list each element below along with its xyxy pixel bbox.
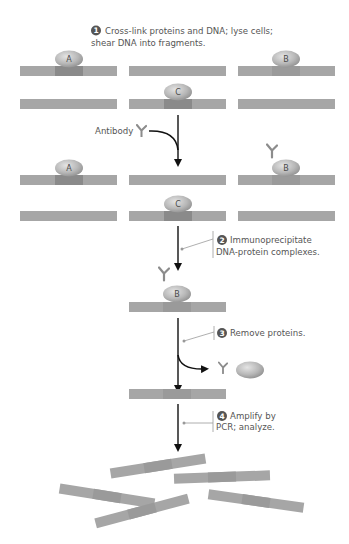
step-2-label: 2 Immunoprecipitate DNA-protein complexe…: [181, 231, 320, 258]
svg-text:C: C: [175, 88, 181, 97]
antibody-icon: [219, 363, 227, 374]
protein-b: B: [272, 51, 300, 68]
precipitated-complex: B: [129, 268, 226, 313]
step-1-text-line1: Cross-link proteins and DNA; lyse cells;: [105, 26, 273, 36]
antibody-icon: [137, 125, 146, 137]
pcr-fragment: [59, 484, 155, 509]
svg-text:C: C: [175, 200, 181, 209]
svg-text:B: B: [174, 290, 180, 299]
step-2-text-line2: DNA-protein complexes.: [216, 247, 320, 257]
free-protein: [236, 362, 264, 379]
removal-arrow: [178, 355, 205, 369]
free-dna: [129, 389, 226, 399]
step-4-text-line1: Amplify by: [230, 411, 276, 421]
step-4-label: 4 Amplify by PCR; analyze.: [183, 411, 276, 432]
svg-text:B: B: [283, 164, 289, 173]
antibody-icon: [159, 268, 169, 281]
chip-diagram: 1 Cross-link proteins and DNA; lyse cell…: [0, 0, 349, 544]
dna-fragment: [238, 211, 335, 221]
step-1-number: 1: [93, 26, 98, 35]
protein-b-with-antibody: B: [267, 145, 300, 177]
step-3-text: Remove proteins.: [230, 328, 305, 338]
leader-line: [184, 332, 214, 341]
step-4-text-line2: PCR; analyze.: [216, 422, 275, 432]
svg-text:2: 2: [219, 236, 224, 245]
step-1-label: 1 Cross-link proteins and DNA; lyse cell…: [91, 26, 273, 48]
protein-c-2: C: [164, 196, 192, 213]
pcr-fragment: [174, 470, 270, 483]
antibody-label: Antibody: [95, 126, 133, 136]
released-proteins: [219, 362, 264, 379]
dna-fragment: [20, 99, 117, 109]
dna-fragment: [129, 66, 226, 76]
dna-row-3: [20, 175, 335, 185]
dna-binding-site: [163, 302, 191, 312]
svg-text:B: B: [283, 55, 289, 64]
step-1-text-line2: shear DNA into fragments.: [91, 38, 206, 48]
dna-fragment: [20, 211, 117, 221]
svg-text:A: A: [66, 164, 72, 173]
pcr-products: [59, 454, 304, 529]
dna-fragment: [238, 99, 335, 109]
pcr-fragment: [208, 489, 304, 512]
dna-fragment: [129, 175, 226, 185]
leader-line: [182, 239, 213, 249]
svg-text:3: 3: [219, 329, 224, 338]
step-3-label: 3 Remove proteins.: [183, 326, 306, 343]
protein-a: A: [55, 51, 83, 68]
dna-binding-site: [163, 389, 191, 399]
dna-row-2: [20, 99, 335, 109]
dna-row-1: [20, 66, 335, 76]
step-2-text-line1: Immunoprecipitate: [230, 235, 312, 245]
protein-c: C: [164, 84, 192, 101]
svg-text:A: A: [66, 55, 72, 64]
antibody-addition: Antibody: [95, 115, 178, 163]
antibody-icon: [267, 145, 277, 158]
dna-row-4: [20, 211, 335, 221]
protein-a-2: A: [55, 160, 83, 177]
svg-text:4: 4: [219, 412, 224, 421]
